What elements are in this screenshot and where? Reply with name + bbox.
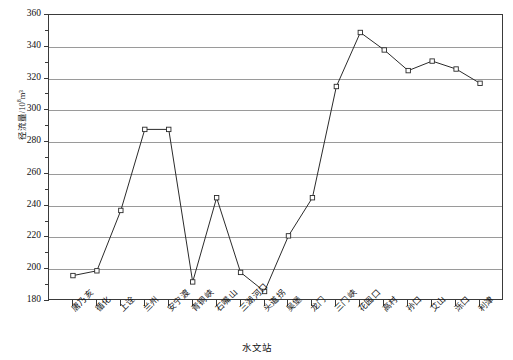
- data-point-marker-11: [334, 84, 338, 88]
- y-tick-label-320: 320: [11, 73, 41, 83]
- y-tick-label-260: 260: [11, 168, 41, 178]
- y-tick-label-200: 200: [11, 263, 41, 273]
- data-point-marker-9: [286, 234, 290, 238]
- x-axis-title: 水文站: [0, 344, 513, 354]
- y-tick-label-240: 240: [11, 200, 41, 210]
- data-point-marker-6: [214, 196, 218, 200]
- data-point-marker-7: [238, 270, 242, 274]
- data-point-marker-0: [71, 273, 75, 277]
- data-point-marker-5: [190, 280, 194, 284]
- y-tick-label-280: 280: [11, 136, 41, 146]
- data-point-marker-17: [478, 81, 482, 85]
- y-tick-label-340: 340: [11, 41, 41, 51]
- data-point-marker-12: [358, 30, 362, 34]
- data-point-marker-16: [454, 67, 458, 71]
- y-axis-title-unit: m³: [17, 90, 27, 99]
- data-point-marker-13: [382, 48, 386, 52]
- runoff-series: [49, 15, 504, 301]
- data-point-marker-1: [95, 269, 99, 273]
- data-point-marker-15: [430, 59, 434, 63]
- data-point-marker-3: [143, 127, 147, 131]
- runoff-line-chart: 径流量/108m³ 180200220240260280300320340360…: [0, 0, 513, 360]
- y-tick-label-300: 300: [11, 104, 41, 114]
- y-tick-label-360: 360: [11, 9, 41, 19]
- series-line: [73, 32, 480, 291]
- data-point-marker-10: [310, 196, 314, 200]
- data-point-marker-14: [406, 68, 410, 72]
- y-tick-label-220: 220: [11, 231, 41, 241]
- y-axis-title-exponent: 8: [16, 99, 22, 102]
- plot-area: [48, 14, 503, 300]
- data-point-marker-2: [119, 208, 123, 212]
- data-point-marker-4: [167, 127, 171, 131]
- y-tick-label-180: 180: [11, 295, 41, 305]
